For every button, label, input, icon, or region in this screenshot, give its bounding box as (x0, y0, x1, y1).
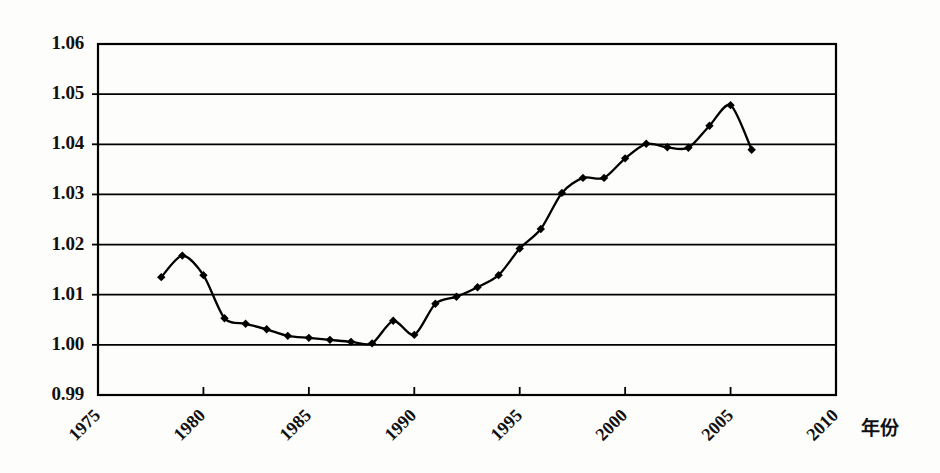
line-chart-canvas (0, 0, 940, 473)
x-axis-title: 年份 (861, 413, 899, 440)
y-axis-tick-label: 1.04 (14, 132, 84, 154)
plot-background (0, 0, 940, 473)
y-axis-tick-label: 1.00 (14, 333, 84, 355)
y-axis-tick-label: 0.99 (14, 383, 84, 405)
chart-figure: 1.061.051.041.031.021.011.000.99 1975198… (0, 0, 940, 473)
y-axis-tick-label: 1.06 (14, 32, 84, 54)
y-axis-tick-label: 1.02 (14, 233, 84, 255)
y-axis-tick-label: 1.03 (14, 182, 84, 204)
y-axis-tick-label: 1.01 (14, 283, 84, 305)
y-axis-tick-label: 1.05 (14, 82, 84, 104)
